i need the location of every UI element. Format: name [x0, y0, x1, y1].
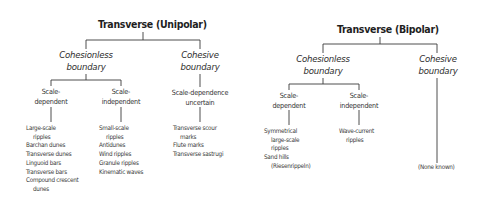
list-item: Transverse dunes: [26, 150, 79, 159]
unipolar-scale-independent-label: Scale- independent: [94, 87, 148, 107]
list-item: Flute marks: [173, 141, 223, 150]
list-item: large-scale: [264, 136, 310, 145]
unipolar-cohesive-label: Cohesive boundary: [170, 49, 230, 73]
list-item: Barchan dunes: [26, 141, 79, 150]
list-item: Wind ripples: [99, 150, 143, 159]
label-line: dependent: [264, 101, 314, 111]
label-line: Cohesive: [408, 53, 468, 65]
label-line: Scale-: [26, 87, 76, 97]
unipolar-scale-uncertain-list: Transverse scourmarksFlute marksTransver…: [173, 124, 223, 159]
list-item: Small-scale: [99, 124, 143, 133]
label-line: Scale-dependence: [167, 88, 233, 98]
list-item: (None known): [418, 163, 455, 172]
list-item: dunes: [26, 185, 79, 194]
list-item: Large-scale: [26, 124, 79, 133]
unipolar-cohesionless-label: Cohesionless boundary: [56, 49, 116, 73]
list-item: Kinematic waves: [99, 168, 143, 177]
list-item: Antidunes: [99, 141, 143, 150]
list-item: Transverse bars: [26, 168, 79, 177]
list-item: Granule ripples: [99, 159, 143, 168]
label-line: uncertain: [167, 98, 233, 108]
label-line: independent: [332, 101, 386, 111]
list-item: Linguoid bars: [26, 159, 79, 168]
list-item: ripples: [99, 133, 143, 142]
unipolar-scale-dependent-label: Scale- dependent: [26, 87, 76, 107]
label-line: Cohesionless: [56, 49, 116, 61]
bipolar-cohesionless-label: Cohesionless boundary: [293, 53, 353, 77]
label-line: Scale-: [332, 91, 386, 101]
label-line: Scale-: [264, 91, 314, 101]
label-line: dependent: [26, 97, 76, 107]
list-item: Transverse sastrugi: [173, 150, 223, 159]
bipolar-scale-independent-label: Scale- independent: [332, 91, 386, 111]
label-line: boundary: [408, 65, 468, 77]
label-line: Scale-: [94, 87, 148, 97]
bipolar-cohesive-label: Cohesive boundary: [408, 53, 468, 77]
unipolar-scale-dependent-list: Large-scaleripplesBarchan dunesTransvers…: [26, 124, 79, 194]
unipolar-connectors: [51, 32, 200, 122]
label-line: boundary: [293, 65, 353, 77]
label-line: independent: [94, 97, 148, 107]
list-item: marks: [173, 133, 223, 142]
bipolar-scale-independent-list: Wave-currentripples: [339, 127, 374, 144]
list-item: ripples: [264, 144, 310, 153]
list-item: Sand hills: [264, 153, 310, 162]
list-item: Transverse scour: [173, 124, 223, 133]
list-item: Compound crescent: [26, 176, 79, 185]
list-item: ripples: [339, 136, 374, 145]
bipolar-scale-dependent-list: Symmetricallarge-scaleripplesSand hills(…: [264, 127, 310, 171]
unipolar-title: Transverse (Unipolar): [98, 19, 207, 30]
list-item: ripples: [26, 133, 79, 142]
bipolar-title: Transverse (Bipolar): [337, 24, 439, 35]
list-item: Symmetrical: [264, 127, 310, 136]
label-line: Cohesionless: [293, 53, 353, 65]
unipolar-scale-uncertain-label: Scale-dependence uncertain: [167, 88, 233, 108]
list-item: (Riesenrippeln): [264, 162, 310, 171]
bipolar-scale-dependent-label: Scale- dependent: [264, 91, 314, 111]
list-item: Wave-current: [339, 127, 374, 136]
unipolar-scale-independent-list: Small-scaleripplesAntidunesWind ripplesG…: [99, 124, 143, 176]
bipolar-cohesive-list: (None known): [418, 163, 455, 172]
label-line: Cohesive: [170, 49, 230, 61]
label-line: boundary: [170, 61, 230, 73]
label-line: boundary: [56, 61, 116, 73]
